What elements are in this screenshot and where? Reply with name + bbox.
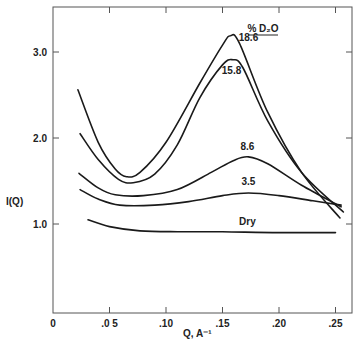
x-tick-label: .20 <box>272 318 286 329</box>
x-tick-label: 0 <box>50 318 56 329</box>
legend-header: % D₂O <box>247 23 278 35</box>
curve-label: 8.6 <box>240 141 254 152</box>
y-tick-label: 2.0 <box>33 133 47 144</box>
curve-3-5 <box>80 190 341 206</box>
curve-label: 3.5 <box>242 176 256 187</box>
x-tick-label: .10 <box>159 318 173 329</box>
axis-ticks: 0.0 5.10.15.20.251.02.03.0 <box>33 7 352 329</box>
curve-label: Dry <box>239 216 256 227</box>
x-axis-title: Q, A⁻¹ <box>183 328 212 339</box>
curve-15-8 <box>80 59 343 212</box>
y-tick-label: 3.0 <box>33 47 47 58</box>
x-tick-label: .25 <box>329 318 343 329</box>
x-tick-label: .0 5 <box>101 318 118 329</box>
scattering-chart: 0.0 5.10.15.20.251.02.03.0 18.615.88.63.… <box>0 0 359 349</box>
data-curves <box>78 35 344 233</box>
curve-label: 15.8 <box>222 65 242 76</box>
curve-18-6 <box>78 35 340 218</box>
x-tick-label: .15 <box>216 318 230 329</box>
y-tick-label: 1.0 <box>33 219 47 230</box>
y-axis-title: I(Q) <box>6 196 23 207</box>
curve-dry <box>88 220 336 233</box>
legend-header-text: % D₂O <box>247 23 278 34</box>
